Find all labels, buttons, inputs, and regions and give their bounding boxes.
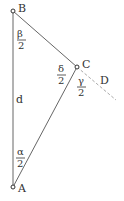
angle-delta-den: 2 (58, 75, 64, 86)
point-b-label: B (18, 2, 26, 15)
point-b-marker (11, 9, 15, 13)
segment-d-label: d (16, 93, 23, 106)
triangle-diagram: B C D A d β 2 δ 2 γ 2 α 2 (0, 0, 124, 201)
angle-beta-num: β (17, 28, 23, 39)
point-a-label: A (17, 182, 27, 195)
point-a-marker (11, 185, 15, 189)
angle-alpha-den: 2 (17, 158, 23, 169)
angle-gamma-num: γ (78, 75, 84, 86)
point-c-label: C (82, 58, 90, 71)
point-c-marker (75, 65, 79, 69)
angle-delta-num: δ (58, 63, 64, 74)
segment-ac (13, 67, 77, 187)
angle-beta-den: 2 (18, 40, 24, 51)
angle-gamma-den: 2 (78, 87, 84, 98)
angle-alpha-num: α (17, 146, 24, 157)
segment-bc (13, 11, 77, 67)
point-d-label: D (100, 74, 109, 87)
